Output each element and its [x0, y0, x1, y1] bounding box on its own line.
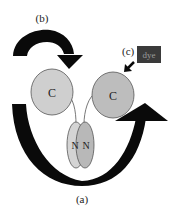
arrow-b-body	[13, 30, 74, 56]
label-b: (b)	[36, 12, 49, 25]
n-domain-left-label: N	[71, 140, 78, 151]
dye-label: dye	[143, 50, 156, 60]
arrow-b	[13, 30, 83, 69]
c-domain-left-label: C	[48, 86, 56, 100]
label-c: (c)	[122, 45, 135, 58]
n-domain-right-label: N	[82, 140, 89, 151]
diagram-canvas: (b) (a) C C N N (c) dye	[0, 0, 178, 209]
label-a: (a)	[76, 193, 89, 206]
arrow-b-head	[57, 55, 83, 69]
c-domain-right-label: C	[109, 89, 117, 103]
dye-attachment-arrow	[124, 62, 134, 72]
